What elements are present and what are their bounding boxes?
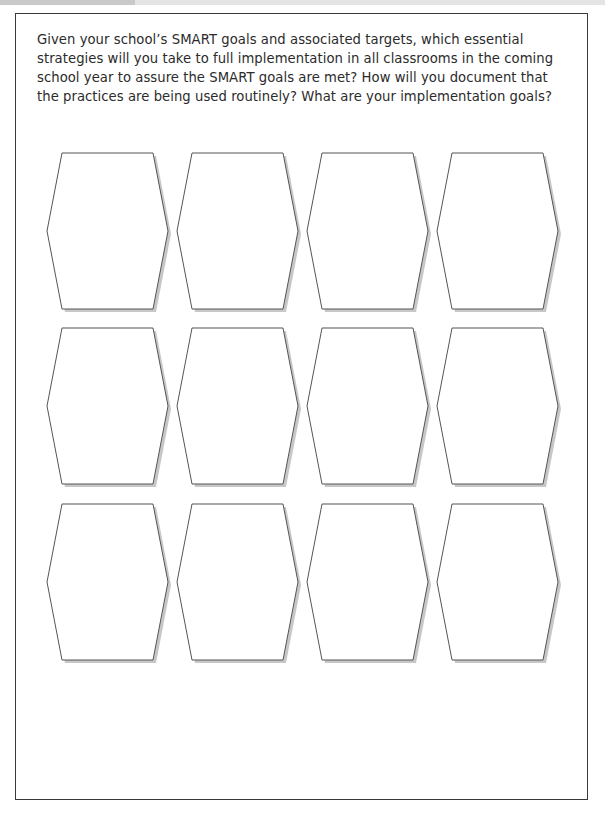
hexagon-grid: [0, 0, 605, 816]
hexagon-box-r3-c3[interactable]: [306, 503, 436, 669]
hexagon-box-r2-c4[interactable]: [436, 327, 566, 493]
hexagon-box-r2-c2[interactable]: [176, 327, 306, 493]
hexagon-box-r3-c4[interactable]: [436, 503, 566, 669]
hexagon-box-r3-c2[interactable]: [176, 503, 306, 669]
hexagon-box-r1-c1[interactable]: [46, 152, 176, 318]
hexagon-box-r2-c3[interactable]: [306, 327, 436, 493]
hexagon-box-r1-c4[interactable]: [436, 152, 566, 318]
hexagon-box-r3-c1[interactable]: [46, 503, 176, 669]
hexagon-box-r1-c2[interactable]: [176, 152, 306, 318]
hexagon-box-r2-c1[interactable]: [46, 327, 176, 493]
hexagon-box-r1-c3[interactable]: [306, 152, 436, 318]
